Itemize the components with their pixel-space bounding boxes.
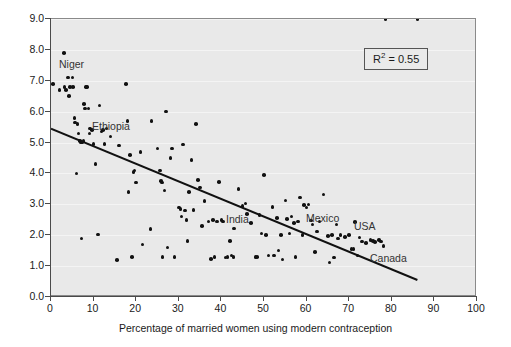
y-axis-line: [50, 18, 51, 296]
x-tick-label: 0: [30, 303, 70, 314]
y-tick-label: 3.0: [0, 198, 44, 209]
x-tick-mark: [263, 296, 264, 301]
point-label-canada: Canada: [370, 253, 407, 264]
point-label-india: India: [226, 214, 249, 225]
x-tick-label: 50: [243, 303, 283, 314]
y-tick-label: 6.0: [0, 106, 44, 117]
y-tick-mark: [45, 265, 50, 266]
x-tick-mark: [93, 296, 94, 301]
y-tick-mark: [45, 18, 50, 19]
x-tick-label: 40: [200, 303, 240, 314]
point-label-niger: Niger: [59, 59, 84, 70]
y-tick-label: 2.0: [0, 229, 44, 240]
y-tick-mark: [45, 142, 50, 143]
x-tick-mark: [433, 296, 434, 301]
x-tick-label: 20: [115, 303, 155, 314]
x-tick-mark: [348, 296, 349, 301]
y-tick-mark: [45, 203, 50, 204]
point-label-ethiopia: Ethiopia: [92, 121, 130, 132]
r-squared-annotation: R2 = 0.55: [364, 48, 428, 70]
x-tick-label: 90: [413, 303, 453, 314]
point-label-mexico: Mexico: [306, 213, 339, 224]
x-tick-mark: [306, 296, 307, 301]
y-tick-label: 8.0: [0, 44, 44, 55]
y-tick-label: 1.0: [0, 260, 44, 271]
y-tick-label: 4.0: [0, 167, 44, 178]
x-tick-label: 10: [73, 303, 113, 314]
y-tick-label: 9.0: [0, 13, 44, 24]
y-tick-mark: [45, 234, 50, 235]
y-tick-mark: [45, 49, 50, 50]
y-tick-mark: [45, 80, 50, 81]
point-label-usa: USA: [354, 221, 376, 232]
x-tick-mark: [135, 296, 136, 301]
x-tick-mark: [178, 296, 179, 301]
scatter-chart-figure: NigerEthiopiaIndiaMexicoUSACanada 0.01.0…: [0, 0, 511, 347]
y-tick-mark: [45, 172, 50, 173]
x-tick-label: 70: [328, 303, 368, 314]
x-tick-label: 60: [286, 303, 326, 314]
y-tick-label: 7.0: [0, 75, 44, 86]
x-axis-title: Percentage of married women using modern…: [0, 322, 511, 334]
y-tick-label: 0.0: [0, 291, 44, 302]
y-tick-label: 5.0: [0, 137, 44, 148]
x-tick-mark: [476, 296, 477, 301]
x-tick-mark: [391, 296, 392, 301]
y-tick-mark: [45, 111, 50, 112]
r2-value: = 0.55: [385, 53, 419, 65]
x-tick-mark: [220, 296, 221, 301]
x-tick-label: 30: [158, 303, 198, 314]
r2-symbol: R: [373, 53, 381, 65]
x-tick-mark: [50, 296, 51, 301]
x-tick-label: 80: [371, 303, 411, 314]
x-tick-label: 100: [456, 303, 496, 314]
